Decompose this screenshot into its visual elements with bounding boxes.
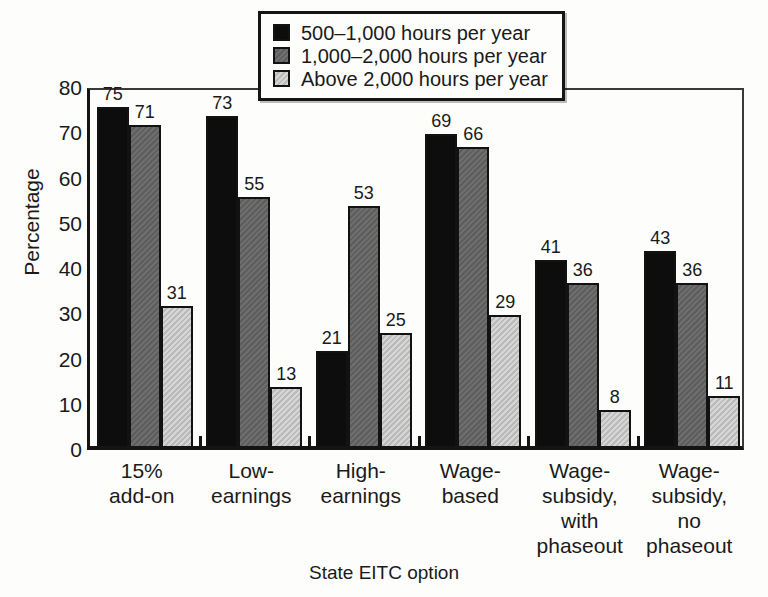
bar: 43 (644, 251, 676, 446)
bar: 31 (161, 306, 193, 446)
bar-value-label: 11 (715, 374, 734, 392)
x-category-label-line: no (623, 508, 755, 533)
bar: 29 (489, 315, 521, 446)
bar-value-label: 69 (431, 112, 451, 130)
bar: 66 (457, 147, 489, 446)
bar-group: 735513 (200, 90, 310, 446)
bar: 11 (708, 396, 740, 446)
bar-value-label: 71 (135, 103, 155, 121)
bar-group: 696629 (419, 90, 529, 446)
bar: 53 (348, 206, 380, 446)
bar: 21 (316, 351, 348, 446)
bar-value-label: 31 (167, 284, 187, 302)
bar-value-label: 66 (463, 125, 483, 143)
x-axis-title: State EITC option (0, 562, 768, 584)
x-category-label-line: subsidy, (623, 483, 755, 508)
bar-group: 41368 (528, 90, 638, 446)
bar: 36 (676, 283, 708, 446)
legend-item: 500–1,000 hours per year (273, 21, 548, 44)
bar-chart-figure: 80706050403020100 Percentage 75713173551… (0, 0, 768, 597)
bar-value-label: 25 (386, 311, 406, 329)
bar-value-label: 13 (276, 365, 296, 383)
bar-value-label: 41 (541, 238, 561, 256)
x-category-label-line: phaseout (623, 533, 755, 558)
bar: 41 (535, 260, 567, 446)
x-category-label-line: Wage- (623, 458, 755, 483)
bar-group: 215325 (309, 90, 419, 446)
plot-frame: 75713173551321532569662941368433611 (87, 88, 744, 450)
y-tick-label-80: 80 (36, 77, 82, 98)
bar-value-label: 36 (682, 261, 702, 279)
bar-group: 433611 (638, 90, 748, 446)
bar: 55 (238, 197, 270, 446)
legend-item-label: 500–1,000 hours per year (301, 23, 530, 43)
y-tick-label-20: 20 (36, 349, 82, 370)
bar-value-label: 73 (212, 94, 232, 112)
bar-value-label: 29 (495, 293, 515, 311)
x-category-label: Wage-subsidy,nophaseout (623, 458, 755, 558)
y-tick-label-0: 0 (36, 439, 82, 460)
bar: 75 (97, 107, 129, 446)
bar: 69 (425, 134, 457, 446)
legend-swatch-icon (273, 47, 290, 64)
bar-value-label: 21 (322, 329, 342, 347)
plot-area: 75713173551321532569662941368433611 (90, 90, 742, 446)
bar-value-label: 36 (573, 261, 593, 279)
chart-legend: 500–1,000 hours per year1,000–2,000 hour… (258, 11, 565, 101)
legend-item-label: Above 2,000 hours per year (301, 69, 548, 89)
bar: 13 (270, 387, 302, 446)
bar-value-label: 75 (103, 85, 123, 103)
legend-item: 1,000–2,000 hours per year (273, 44, 548, 67)
legend-swatch-icon (273, 70, 290, 87)
legend-item: Above 2,000 hours per year (273, 67, 548, 90)
bar: 25 (380, 333, 412, 446)
x-axis-category-labels: 15%add-onLow-earningsHigh-earningsWage-b… (87, 458, 744, 554)
y-tick-label-10: 10 (36, 394, 82, 415)
legend-swatch-icon (273, 24, 290, 41)
bar: 8 (599, 410, 631, 446)
bar-value-label: 55 (244, 175, 264, 193)
y-axis-title: Percentage (20, 142, 44, 302)
bar-value-label: 43 (650, 229, 670, 247)
bar-group: 757131 (90, 90, 200, 446)
bar-value-label: 8 (610, 388, 620, 406)
y-tick-label-30: 30 (36, 303, 82, 324)
bar: 36 (567, 283, 599, 446)
bar: 71 (129, 125, 161, 446)
bar: 73 (206, 116, 238, 446)
bar-value-label: 53 (354, 184, 374, 202)
legend-item-label: 1,000–2,000 hours per year (301, 46, 547, 66)
y-tick-label-70: 70 (36, 122, 82, 143)
